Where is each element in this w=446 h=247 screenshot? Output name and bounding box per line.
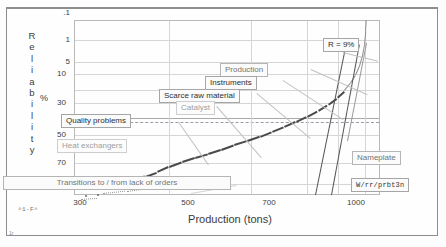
x-tick-label-0: 300 xyxy=(60,198,100,207)
data-segment xyxy=(182,157,195,163)
y-title-letter-4: a xyxy=(25,76,39,87)
callout-transitions[interactable]: Transitions to / from lack of orders xyxy=(3,176,231,190)
callout-production[interactable]: Production xyxy=(220,63,268,77)
gridline-v-850 xyxy=(307,21,308,194)
y-title-letter-1: e xyxy=(25,41,39,52)
x-tick-label-1: 500 xyxy=(168,198,208,207)
y-title-letter-2: l xyxy=(25,53,39,64)
weibull-reliability-plot-figure: R e l i a b i l i t y % .1 1 5 10 30 50 … xyxy=(0,0,446,247)
y-tick-label-0: .1 xyxy=(44,9,70,17)
x-tick-label-2: 700 xyxy=(249,198,289,207)
data-segment xyxy=(234,140,247,145)
callout-heat-exchangers[interactable]: Heat exchangers xyxy=(57,139,127,153)
y-tick-label-6: 70 xyxy=(40,159,66,167)
data-segment xyxy=(157,166,169,172)
plot-area: R = 9% Production Instruments Scarce raw… xyxy=(74,20,380,195)
data-segment xyxy=(307,111,317,118)
callout-quality-problems[interactable]: Quality problems xyxy=(61,114,131,128)
callout-catalyst[interactable]: Catalyst xyxy=(176,101,215,115)
y-title-letter-9: t xyxy=(25,133,39,144)
callout-nameplate[interactable]: Nameplate xyxy=(352,151,401,165)
fit-line-b xyxy=(331,45,360,196)
gridline-v-500 xyxy=(169,21,170,194)
y-title-letter-8: i xyxy=(25,121,39,132)
data-segment xyxy=(272,127,284,133)
leader-line xyxy=(216,106,261,158)
callout-r-value[interactable]: R = 9% xyxy=(323,38,359,52)
y-title-letter-7: l xyxy=(25,110,39,121)
gridline-v-700 xyxy=(251,21,252,194)
y-tick-label-1: 1 xyxy=(44,36,70,44)
x-tick-label-3: 1000 xyxy=(336,198,376,207)
corner-note: ^1-F^ xyxy=(18,206,38,213)
y-axis-title: R e l i a b i l i t y xyxy=(25,30,39,155)
callout-watermark: W/rr/prbt3n xyxy=(351,178,409,192)
y-title-letter-10: y xyxy=(25,144,39,155)
data-segment xyxy=(365,20,367,31)
data-segment xyxy=(208,149,221,155)
gridline-h-70 xyxy=(75,163,379,164)
gridline-h-50 xyxy=(75,135,379,136)
y-tick-label-4: 30 xyxy=(40,99,66,107)
data-tail-segment xyxy=(103,191,125,194)
y-tick-label-3: 10 xyxy=(40,70,66,78)
y-tick-label-2: 5 xyxy=(44,58,70,66)
x-axis-title: Production (tons) xyxy=(150,213,310,225)
data-point xyxy=(97,194,99,196)
callout-instruments[interactable]: Instruments xyxy=(205,76,257,90)
data-segment xyxy=(247,136,260,142)
y-tick-label-5: 50 xyxy=(40,131,66,139)
leader-line xyxy=(256,93,310,139)
data-point xyxy=(85,195,87,197)
page-corner-mark: 1r xyxy=(9,230,13,236)
y-title-letter-0: R xyxy=(25,30,39,41)
data-segment xyxy=(221,145,234,151)
y-title-letter-6: i xyxy=(25,98,39,109)
y-title-letter-3: i xyxy=(25,64,39,75)
y-title-letter-5: b xyxy=(25,87,39,98)
